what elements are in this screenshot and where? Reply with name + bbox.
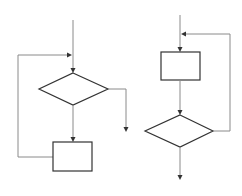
left-process-box bbox=[53, 142, 92, 171]
left-loop-arrowhead bbox=[67, 53, 72, 58]
left-exit-arrowhead bbox=[124, 127, 129, 132]
left-decision-diamond bbox=[39, 73, 108, 105]
right-decision-arrowhead bbox=[178, 110, 183, 115]
right-decision-diamond bbox=[145, 115, 213, 147]
right-entry-arrowhead bbox=[178, 47, 183, 52]
flowchart-canvas bbox=[0, 0, 242, 196]
left-flowchart bbox=[18, 20, 129, 171]
left-exit-connector bbox=[108, 89, 126, 129]
right-process-box bbox=[161, 52, 200, 80]
right-flowchart bbox=[145, 15, 230, 180]
left-entry-arrowhead bbox=[71, 68, 76, 73]
right-loop-arrowhead bbox=[181, 32, 186, 37]
right-loop-back-connector bbox=[183, 34, 230, 131]
left-process-arrowhead bbox=[71, 137, 76, 142]
right-exit-arrowhead bbox=[178, 175, 183, 180]
